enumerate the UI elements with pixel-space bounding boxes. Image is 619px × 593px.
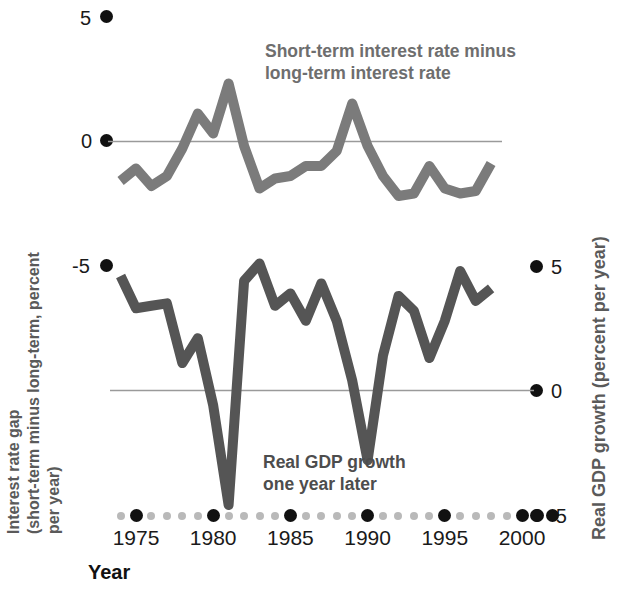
x-axis-year-label: 1975 (113, 527, 160, 548)
y-axis-right-title: Real GDP growth (percent per year) (588, 230, 611, 540)
x-axis-year-label: 1985 (267, 527, 314, 548)
y-axis-left-title: Interest rate gap (short-term minus long… (4, 224, 64, 534)
x-axis-year-label: 1990 (344, 527, 391, 548)
x-axis-year-label: 2000 (499, 527, 546, 548)
x-axis-year-label: 1995 (421, 527, 468, 548)
x-axis-title: Year (88, 562, 130, 582)
x-axis-year-labels: 197519801985199019952000 (0, 0, 619, 593)
chart-figure: 5 0 -5 5 0 -5 Short-term interest rate m… (0, 0, 619, 593)
x-axis-year-label: 1980 (190, 527, 237, 548)
